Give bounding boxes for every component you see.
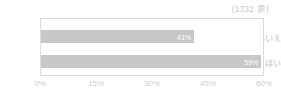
x-tick-label: 15% xyxy=(88,79,104,88)
x-tick-label: 60% xyxy=(256,79,272,88)
bar-hai: 59% xyxy=(41,55,261,68)
x-tick-label: 0% xyxy=(34,79,46,88)
bar-row: 41% xyxy=(41,30,194,43)
bar-row: 59% xyxy=(41,55,261,68)
bar-chart: (1332 票) いいえ はい 41% 59% 0%15%30%45%60% xyxy=(0,0,281,100)
bar-iie: 41% xyxy=(41,30,194,43)
bar-value-label: 41% xyxy=(177,33,191,40)
x-tick-label: 30% xyxy=(144,79,160,88)
total-votes-annotation: (1332 票) xyxy=(231,2,269,14)
bar-value-label: 59% xyxy=(244,58,258,65)
x-tick-label: 45% xyxy=(200,79,216,88)
plot-area: 41% 59% xyxy=(40,18,264,76)
x-axis: 0%15%30%45%60% xyxy=(40,79,264,93)
